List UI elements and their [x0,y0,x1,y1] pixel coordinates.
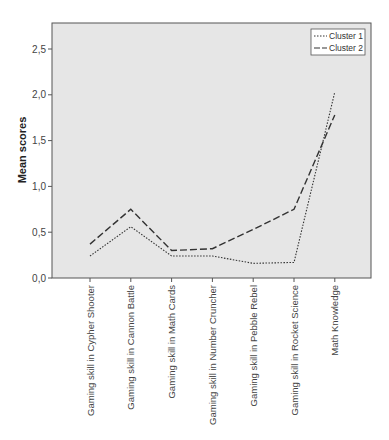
legend-label-cluster-2: Cluster 2 [329,43,363,53]
y-tick-label: 2,0 [32,89,46,100]
y-tick-label: 0,5 [32,227,46,238]
y-axis: 0,00,51,01,52,02,5 [32,44,52,284]
legend: Cluster 1 Cluster 2 [311,29,365,55]
y-tick-label: 2,5 [32,44,46,55]
x-tick-label: Math Knowledge [329,285,340,356]
x-tick-label: Gaming skill in Math Cards [166,285,177,399]
y-tick-label: 0,0 [32,273,46,284]
x-tick-label: Gaming skill in Cypher Shooter [85,285,96,416]
legend-label-cluster-1: Cluster 1 [329,31,363,41]
x-tick-label: Gaming skill in Pebble Rebel [248,285,259,406]
x-tick-label: Gaming skill in Number Cruncher [207,285,218,425]
plot-area [52,23,371,278]
x-tick-label: Gaming skill in Rocket Science [289,285,300,415]
y-tick-label: 1,5 [32,135,46,146]
y-axis-title: Mean scores [16,117,28,184]
x-tick-label: Gaming skill in Cannon Battle [125,285,136,410]
y-tick-label: 1,0 [32,181,46,192]
line-chart: 0,00,51,01,52,02,5 Mean scores Gaming sk… [0,0,389,440]
x-axis: Gaming skill in Cypher ShooterGaming ski… [85,278,341,425]
